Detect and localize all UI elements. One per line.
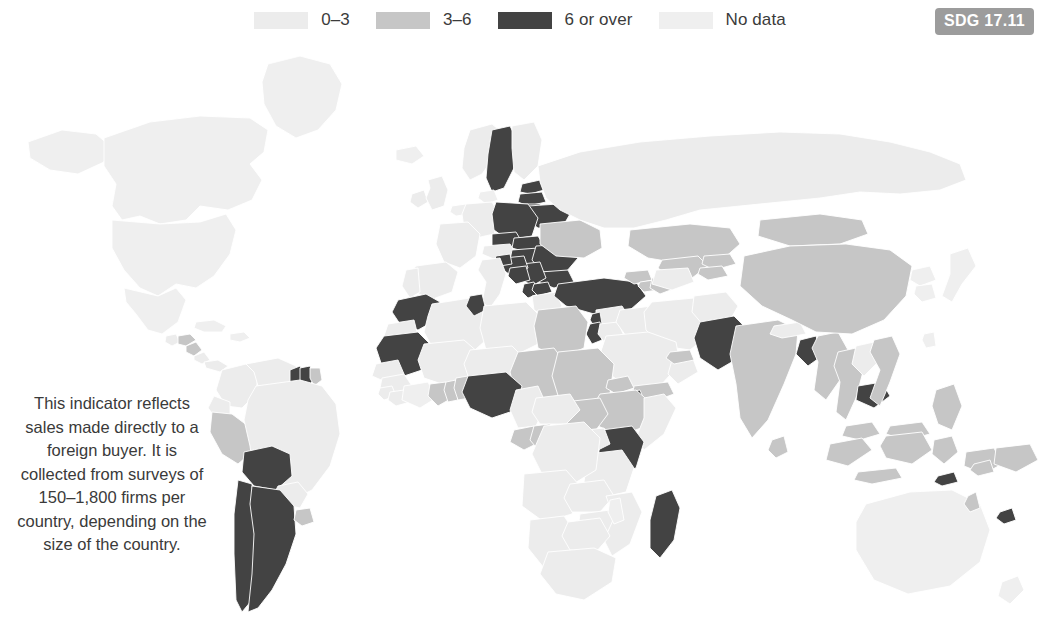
country-alaska	[28, 130, 110, 174]
legend-item-no-data: No data	[659, 10, 786, 30]
legend-swatch-0-3	[254, 12, 308, 29]
legend-label-3-6: 3–6	[443, 10, 472, 30]
legend-label-no-data: No data	[726, 10, 786, 30]
country-cuba	[194, 320, 226, 332]
country-hispaniola	[230, 332, 250, 342]
country-papua-new-guinea	[994, 444, 1038, 472]
country-sri-lanka	[768, 436, 788, 458]
country-ireland	[410, 190, 428, 208]
country-portugal	[402, 268, 420, 298]
map-caption: This indicator reflects sales made direc…	[14, 392, 210, 557]
country-indonesia-sulawesi	[932, 436, 958, 464]
country-russia	[538, 132, 966, 228]
country-south-korea	[914, 284, 936, 302]
country-tajikistan	[698, 266, 728, 280]
country-north-korea	[910, 266, 936, 286]
country-bosnia-and-herzegovina	[508, 266, 530, 284]
country-canada	[104, 116, 268, 224]
country-india	[730, 320, 798, 438]
country-mongolia	[758, 214, 868, 246]
country-indonesia-borneo	[880, 432, 932, 464]
legend-swatch-6-or-over	[498, 12, 552, 29]
country-timor-leste	[934, 472, 958, 486]
map-legend: 0–3 3–6 6 or over No data	[0, 0, 1040, 40]
country-fiji	[996, 508, 1016, 524]
legend-item-6-or-over: 6 or over	[498, 10, 633, 30]
country-botswana	[562, 518, 610, 552]
country-china	[740, 244, 912, 334]
country-taiwan	[922, 332, 936, 348]
country-madagascar	[650, 490, 680, 558]
legend-swatch-3-6	[376, 12, 430, 29]
country-greenland	[262, 56, 342, 138]
country-south-africa	[540, 548, 616, 600]
country-iceland	[396, 146, 424, 164]
country-france	[436, 222, 480, 268]
legend-swatch-no-data	[659, 12, 713, 29]
country-uruguay	[294, 508, 314, 526]
country-indonesia-sumatra	[826, 438, 872, 466]
legend-label-6-or-over: 6 or over	[565, 10, 633, 30]
country-japan	[942, 248, 976, 302]
country-new-zealand	[998, 576, 1024, 604]
legend-item-0-3: 0–3	[254, 10, 350, 30]
sdg-badge: SDG 17.11	[935, 8, 1034, 35]
legend-label-0-3: 0–3	[321, 10, 350, 30]
country-mexico	[124, 288, 186, 334]
country-finland	[512, 122, 542, 180]
country-philippines	[932, 384, 962, 430]
country-indonesia-java	[854, 468, 902, 484]
country-malaysia	[842, 422, 880, 440]
country-united-states	[112, 214, 236, 296]
country-argentina	[248, 486, 296, 612]
legend-item-3-6: 3–6	[376, 10, 472, 30]
country-united-kingdom	[426, 176, 448, 210]
